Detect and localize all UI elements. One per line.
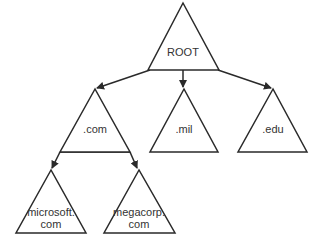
- label-root: ROOT: [167, 46, 199, 58]
- node-microsoft: microsoft. com: [16, 170, 86, 233]
- node-megacorp: megacorp. com: [104, 170, 175, 233]
- edge-com-microsoft: [52, 152, 60, 168]
- label-edu: .edu: [262, 123, 283, 135]
- edge-root-edu: [218, 70, 271, 88]
- label-com: .com: [83, 123, 107, 135]
- label-mil: .mil: [175, 123, 192, 135]
- label-megacorp-line1: megacorp.: [113, 206, 165, 218]
- label-microsoft-line2: com: [41, 218, 62, 230]
- label-microsoft-line1: microsoft.: [27, 206, 75, 218]
- domain-tree-diagram: ROOT .com .mil .edu microsoft. com megac…: [0, 0, 324, 250]
- triangle-edu: [238, 89, 307, 152]
- triangle-com: [60, 89, 130, 152]
- triangle-root: [148, 3, 219, 70]
- node-root: ROOT: [148, 3, 219, 70]
- edge-com-megacorp: [130, 152, 137, 168]
- node-mil: .mil: [150, 89, 218, 152]
- triangle-mil: [150, 89, 218, 152]
- label-megacorp-line2: com: [129, 218, 150, 230]
- node-edu: .edu: [238, 89, 307, 152]
- edge-root-com: [97, 70, 150, 88]
- node-com: .com: [60, 89, 130, 152]
